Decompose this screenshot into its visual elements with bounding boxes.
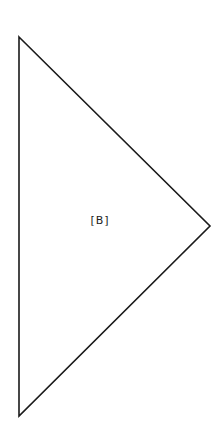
triangle-label: [B] — [80, 214, 120, 228]
